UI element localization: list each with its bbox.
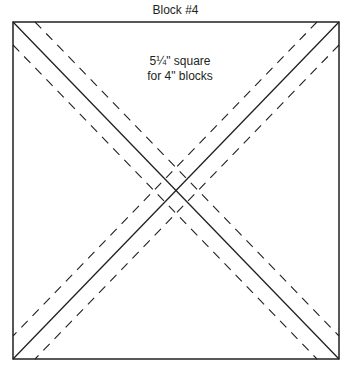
size-label-line-2: for 4" blocks — [130, 69, 230, 84]
size-label: 5¼" square for 4" blocks — [130, 54, 230, 84]
size-label-line-1: 5¼" square — [130, 54, 230, 69]
